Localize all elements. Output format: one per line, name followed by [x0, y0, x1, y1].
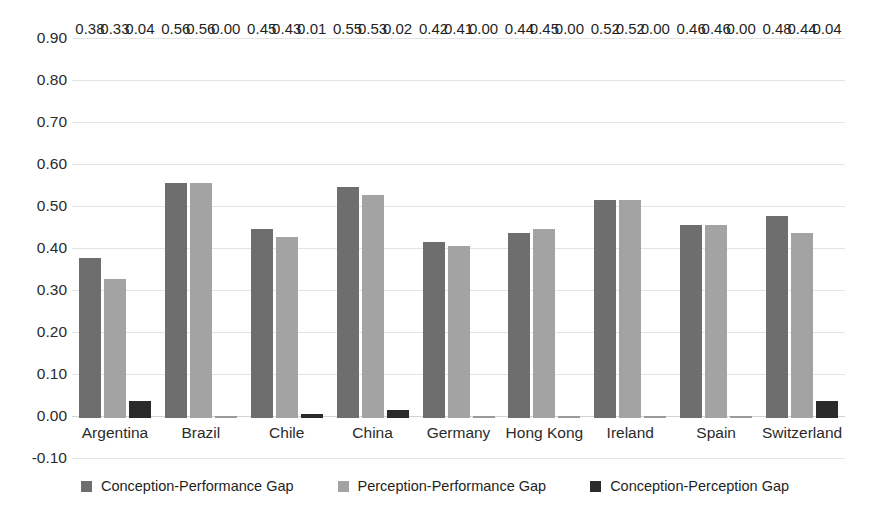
bar[interactable]: 0.02: [387, 410, 409, 418]
x-axis-tick-label: Switzerland: [759, 424, 845, 442]
bar-group: 0.380.330.04: [72, 38, 158, 458]
bar[interactable]: 0.53: [362, 195, 384, 418]
x-axis: ArgentinaBrazilChileChinaGermanyHong Kon…: [72, 424, 845, 442]
bar-column: 0.48: [766, 38, 788, 418]
bar-column: 0.45: [251, 38, 273, 418]
bar[interactable]: 0.01: [301, 414, 323, 418]
y-axis-tick-label: 0.50: [7, 198, 67, 214]
bar[interactable]: 0.00: [215, 416, 237, 418]
bar-column: 0.42: [423, 38, 445, 418]
bar-value-label: 0.04: [125, 21, 154, 36]
y-axis-tick-label: 0.60: [7, 156, 67, 172]
y-axis-tick-label: 0.30: [7, 282, 67, 298]
bar-group-bars: 0.550.530.02: [330, 38, 416, 418]
bar[interactable]: 0.46: [705, 225, 727, 418]
y-axis-tick-label: 0.40: [7, 240, 67, 256]
bar-group: 0.440.450.00: [501, 38, 587, 458]
x-axis-tick-label: Spain: [673, 424, 759, 442]
bar-group-bars: 0.420.410.00: [416, 38, 502, 418]
bar-column: 0.52: [619, 38, 641, 418]
bar-column: 0.00: [644, 38, 666, 418]
bar[interactable]: 0.56: [190, 183, 212, 418]
bar-value-label: 0.00: [555, 21, 584, 36]
bar-column: 0.45: [533, 38, 555, 418]
bar-column: 0.56: [165, 38, 187, 418]
x-axis-tick-label: Ireland: [587, 424, 673, 442]
bar-column: 0.55: [337, 38, 359, 418]
gridline: [72, 458, 845, 459]
bar[interactable]: 0.52: [594, 200, 616, 418]
bar[interactable]: 0.43: [276, 237, 298, 418]
bar-value-label: 0.00: [469, 21, 498, 36]
bar-group: 0.460.460.00: [673, 38, 759, 458]
y-axis-tick-label: 0.80: [7, 72, 67, 88]
bar-group: 0.450.430.01: [244, 38, 330, 458]
bar-column: 0.46: [680, 38, 702, 418]
y-axis-tick-label: 0.90: [7, 30, 67, 46]
bar-column: 0.33: [104, 38, 126, 418]
legend-item-label: Conception-Perception Gap: [610, 478, 789, 494]
bar[interactable]: 0.00: [473, 416, 495, 418]
y-axis-tick-label: -0.10: [7, 450, 67, 466]
bar-column: 0.00: [473, 38, 495, 418]
y-axis-tick-label: 0.10: [7, 366, 67, 382]
bar[interactable]: 0.45: [533, 229, 555, 418]
bar[interactable]: 0.04: [129, 401, 151, 418]
x-axis-tick-label: China: [330, 424, 416, 442]
bar-group: 0.520.520.00: [587, 38, 673, 458]
x-axis-tick-label: Brazil: [158, 424, 244, 442]
bar-column: 0.00: [215, 38, 237, 418]
bar[interactable]: 0.55: [337, 187, 359, 418]
bar[interactable]: 0.00: [644, 416, 666, 418]
legend-item[interactable]: Conception-Perception Gap: [590, 478, 789, 494]
bar[interactable]: 0.00: [558, 416, 580, 418]
bar-column: 0.44: [508, 38, 530, 418]
x-axis-tick-label: Germany: [416, 424, 502, 442]
bar[interactable]: 0.48: [766, 216, 788, 418]
bar-column: 0.00: [558, 38, 580, 418]
bar-group-bars: 0.440.450.00: [501, 38, 587, 418]
y-axis-tick-label: 0.20: [7, 324, 67, 340]
bar-group-bars: 0.450.430.01: [244, 38, 330, 418]
bar[interactable]: 0.41: [448, 246, 470, 418]
bar[interactable]: 0.33: [104, 279, 126, 418]
bar-value-label: 0.00: [641, 21, 670, 36]
legend-swatch-icon: [81, 481, 92, 492]
bar-column: 0.02: [387, 38, 409, 418]
bar-column: 0.04: [129, 38, 151, 418]
bar[interactable]: 0.00: [730, 416, 752, 418]
bar[interactable]: 0.04: [816, 401, 838, 418]
bar-column: 0.01: [301, 38, 323, 418]
bar-column: 0.53: [362, 38, 384, 418]
legend-item[interactable]: Perception-Performance Gap: [338, 478, 547, 494]
bar[interactable]: 0.42: [423, 242, 445, 418]
legend-item[interactable]: Conception-Performance Gap: [81, 478, 294, 494]
y-axis-tick-label: 0.00: [7, 408, 67, 424]
bar[interactable]: 0.52: [619, 200, 641, 418]
bar-column: 0.41: [448, 38, 470, 418]
x-axis-tick-label: Chile: [244, 424, 330, 442]
x-axis-tick-label: Hong Kong: [501, 424, 587, 442]
bar-group: 0.550.530.02: [330, 38, 416, 458]
bar[interactable]: 0.46: [680, 225, 702, 418]
bar[interactable]: 0.44: [791, 233, 813, 418]
legend-item-label: Conception-Performance Gap: [101, 478, 294, 494]
legend-swatch-icon: [338, 481, 349, 492]
bar-column: 0.38: [79, 38, 101, 418]
bar[interactable]: 0.45: [251, 229, 273, 418]
bar-column: 0.52: [594, 38, 616, 418]
bar-column: 0.43: [276, 38, 298, 418]
bar[interactable]: 0.38: [79, 258, 101, 418]
bar-group: 0.480.440.04: [759, 38, 845, 458]
bar[interactable]: 0.56: [165, 183, 187, 418]
bar[interactable]: 0.44: [508, 233, 530, 418]
bar-group-bars: 0.480.440.04: [759, 38, 845, 418]
bar-group-bars: 0.520.520.00: [587, 38, 673, 418]
legend-swatch-icon: [590, 481, 601, 492]
y-axis-tick-label: 0.70: [7, 114, 67, 130]
bar-value-label: 0.04: [812, 21, 841, 36]
bar-groups: 0.380.330.040.560.560.000.450.430.010.55…: [72, 38, 845, 458]
x-axis-tick-label: Argentina: [72, 424, 158, 442]
bar-column: 0.00: [730, 38, 752, 418]
bar-group: 0.420.410.00: [416, 38, 502, 458]
